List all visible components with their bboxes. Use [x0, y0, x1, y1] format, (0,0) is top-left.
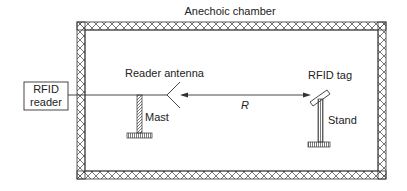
distance-arrow	[180, 93, 311, 98]
chamber-walls	[77, 22, 386, 179]
distance-label: R	[241, 99, 249, 111]
rfid-reader-label-line2: reader	[30, 96, 62, 108]
chamber-title: Anechoic chamber	[184, 5, 275, 17]
stand-label: Stand	[328, 114, 357, 126]
reader-antenna-icon	[167, 82, 180, 108]
rfid-reader-label-line1: RFID	[33, 83, 59, 95]
rfid-tag-label: RFID tag	[308, 69, 352, 81]
rfid-reader: RFID reader	[24, 82, 68, 110]
reader-antenna-label: Reader antenna	[125, 67, 205, 79]
mast-label: Mast	[145, 111, 169, 123]
stand	[308, 99, 330, 147]
measurement-setup-diagram: Anechoic chamber RFID reader Mast Reader…	[0, 0, 407, 191]
